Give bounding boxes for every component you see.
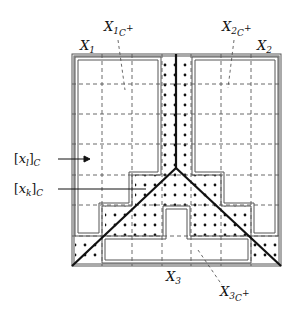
label-x1: X1 [79,38,95,55]
label-x2: X2 [256,38,272,55]
label-xl-class: [xl]C [14,151,41,168]
label-x1-c-plus: X1C+ [103,19,133,38]
label-x3: X3 [165,269,181,286]
label-xk-class: [xk]C [14,181,43,198]
label-x3-c-plus: X3C+ [219,284,249,303]
decomposition-diagram: X1 X2 X3 X1C+ X2C+ X3C+ [xl]C [xk]C [0,0,295,310]
bold-lines [72,54,281,266]
label-x2-c-plus: X2C+ [221,19,251,38]
